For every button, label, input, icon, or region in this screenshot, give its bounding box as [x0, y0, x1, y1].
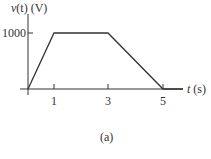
y-axis-label: v(t) (V)	[11, 1, 47, 16]
voltage-trace	[28, 33, 183, 89]
figure-caption: (a)	[100, 130, 113, 145]
y-tick-label-1000: 1000	[2, 26, 26, 41]
x-tick-label-3: 3	[105, 94, 111, 109]
x-tick-label-5: 5	[160, 94, 166, 109]
x-axis-label-unit: (s)	[190, 82, 206, 96]
y-axis-label-unit: (t) (V)	[16, 1, 47, 15]
x-tick-label-1: 1	[51, 94, 57, 109]
x-axis-label: t (s)	[187, 82, 206, 97]
